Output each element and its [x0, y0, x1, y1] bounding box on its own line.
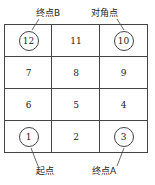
label-end-a: 终点A — [92, 164, 116, 177]
label-end-b: 终点B — [36, 6, 60, 19]
label-diagonal-point: 对角点 — [91, 6, 118, 19]
leader-lines — [0, 0, 155, 185]
label-start-point: 起点 — [36, 164, 54, 177]
